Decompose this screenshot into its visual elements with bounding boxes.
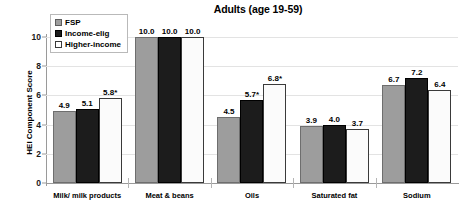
- bar-value-label: 5.1: [82, 99, 93, 108]
- legend-item[interactable]: FSP: [55, 18, 121, 27]
- legend-swatch-icon: [55, 19, 62, 26]
- bar-group: 4.95.15.8*: [46, 37, 128, 183]
- bar-value-label: 3.9: [306, 116, 317, 125]
- legend-label: FSP: [65, 18, 81, 27]
- bar[interactable]: 3.9: [300, 126, 323, 183]
- bar[interactable]: 5.8*: [99, 98, 122, 183]
- x-axis-group-separator: [376, 178, 377, 188]
- bar-value-label: 6.8*: [268, 74, 282, 83]
- bar[interactable]: 7.2: [405, 78, 428, 183]
- bar[interactable]: 10.0: [135, 37, 158, 183]
- bar-value-label: 10.0: [162, 27, 178, 36]
- x-axis-category-label: Saturated fat: [311, 191, 357, 200]
- legend-item[interactable]: Higher-income: [55, 40, 121, 49]
- bar-group-bars: 10.010.010.0: [128, 37, 210, 183]
- chart-legend: FSPIncome-eligHigher-income: [50, 14, 128, 53]
- x-axis-category-label: Meat & beans: [145, 191, 193, 200]
- legend-item[interactable]: Income-elig: [55, 29, 121, 38]
- x-axis-category-label: Oils: [245, 191, 259, 200]
- bar[interactable]: 6.4: [428, 90, 451, 183]
- bar-group-bars: 6.77.26.4: [376, 37, 458, 183]
- x-axis-category-label: Milk/ milk products: [53, 191, 121, 200]
- x-axis-category-label: Sodium: [403, 191, 431, 200]
- bar-value-label: 7.2: [411, 68, 422, 77]
- bar-group-bars: 3.94.03.7: [293, 37, 375, 183]
- legend-swatch-icon: [55, 30, 62, 37]
- y-axis-title: HEI Component Score: [25, 43, 34, 183]
- bar[interactable]: 5.1: [76, 109, 99, 183]
- bar-group: 3.94.03.7: [293, 37, 375, 183]
- bar-value-label: 6.4: [434, 80, 445, 89]
- bar-group: 4.55.7*6.8*: [211, 37, 293, 183]
- bar[interactable]: 6.7: [382, 85, 405, 183]
- bar-value-label: 10.0: [185, 27, 201, 36]
- bar-group-bars: 4.95.15.8*: [46, 37, 128, 183]
- bar-value-label: 4.5: [223, 107, 234, 116]
- legend-label: Higher-income: [65, 40, 121, 49]
- bar-value-label: 3.7: [352, 119, 363, 128]
- x-axis-line: [46, 183, 459, 184]
- legend-label: Income-elig: [65, 29, 109, 38]
- x-axis-group-separator: [293, 178, 294, 188]
- bar-value-label: 6.7: [388, 75, 399, 84]
- bar[interactable]: 3.7: [346, 129, 369, 183]
- bar[interactable]: 6.8*: [263, 84, 286, 183]
- bar-value-label: 10.0: [139, 27, 155, 36]
- bar-value-label: 5.7*: [245, 90, 259, 99]
- bar[interactable]: 5.7*: [240, 100, 263, 183]
- bar-value-label: 4.9: [59, 101, 70, 110]
- bar-chart: Adults (age 19-59) HEI Component Score 0…: [0, 0, 468, 215]
- x-axis-group-separator: [128, 178, 129, 188]
- legend-swatch-icon: [55, 41, 62, 48]
- bar[interactable]: 10.0: [181, 37, 204, 183]
- bar[interactable]: 4.0: [323, 125, 346, 183]
- bar[interactable]: 4.9: [53, 111, 76, 183]
- bar-value-label: 5.8*: [103, 88, 117, 97]
- bar-group-bars: 4.55.7*6.8*: [211, 37, 293, 183]
- bar-value-label: 4.0: [329, 115, 340, 124]
- x-axis-group-separator: [211, 178, 212, 188]
- bar-group: 10.010.010.0: [128, 37, 210, 183]
- bar-group: 6.77.26.4: [376, 37, 458, 183]
- bar[interactable]: 4.5: [217, 117, 240, 183]
- plot-area: 02468104.95.15.8*10.010.010.04.55.7*6.8*…: [46, 37, 458, 183]
- bar[interactable]: 10.0: [158, 37, 181, 183]
